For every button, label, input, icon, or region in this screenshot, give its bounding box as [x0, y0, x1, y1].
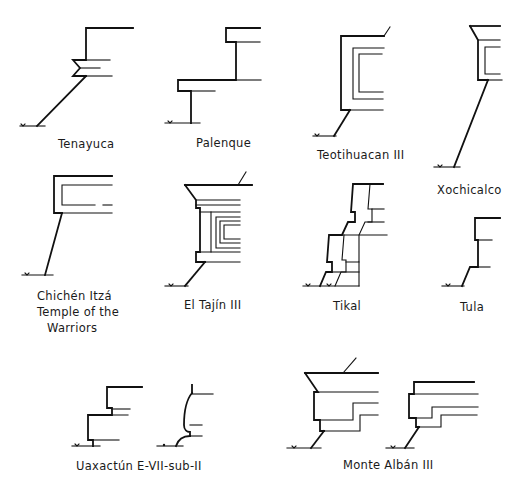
- profile-tajin: [165, 172, 252, 286]
- profile-palenque: [165, 28, 261, 123]
- label-tajin: El Tajín III: [184, 298, 241, 312]
- label-tikal: Tikal: [333, 299, 361, 313]
- profile-tula: [442, 218, 500, 286]
- label-tula: Tula: [460, 300, 484, 314]
- label-chichen-line2: Temple of the: [37, 305, 119, 319]
- profile-tenayuca: [20, 28, 133, 126]
- profile-xochicalco: [434, 26, 502, 167]
- label-palenque: Palenque: [196, 136, 251, 150]
- profile-uaxactun: [72, 385, 213, 446]
- profile-montealban: [287, 358, 478, 448]
- diagram-canvas: Tenayuca Palenque Teotihuacan III Xochic…: [0, 0, 520, 486]
- label-chichen-line1: Chichén Itzá: [37, 289, 112, 303]
- profile-teotihuacan: [313, 27, 390, 136]
- label-uaxactun: Uaxactún E-VII-sub-II: [76, 459, 202, 473]
- profile-tikal: [303, 184, 387, 286]
- profile-chichen: [22, 176, 112, 275]
- label-xochicalco: Xochicalco: [437, 183, 502, 197]
- label-montealban: Monte Albán III: [343, 458, 434, 472]
- label-chichen-line3: Warriors: [47, 321, 97, 335]
- label-tenayuca: Tenayuca: [58, 137, 114, 151]
- label-teotihuacan: Teotihuacan III: [317, 148, 405, 162]
